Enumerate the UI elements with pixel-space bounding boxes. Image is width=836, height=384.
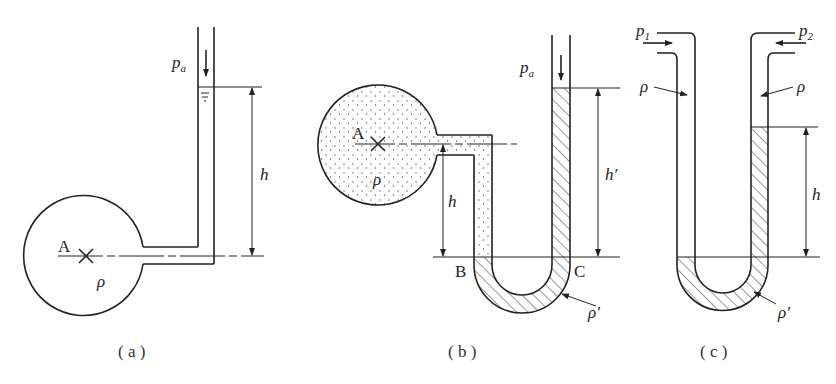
- label-h: h: [260, 165, 269, 184]
- panel-c: p1 p2 ρ ρ h ρ′ ( c ): [635, 21, 821, 361]
- label-pa: pa: [171, 53, 187, 74]
- label-h: h: [448, 192, 457, 211]
- label-density-rho: ρ: [96, 272, 105, 291]
- label-point-c: C: [574, 262, 585, 281]
- caption-a: ( a ): [118, 342, 145, 361]
- label-h: h: [812, 185, 821, 204]
- panel-a: A ρ pa h ( a ): [24, 27, 269, 361]
- label-p1: p1: [635, 21, 650, 42]
- label-density-rho-right: ρ: [796, 77, 805, 96]
- label-density-rho-prime: ρ′: [777, 303, 790, 322]
- u-tube-outer: [657, 53, 795, 311]
- caption-c: ( c ): [700, 342, 727, 361]
- label-pa: pa: [519, 58, 535, 79]
- label-density-rho: ρ: [372, 170, 381, 189]
- caption-b: ( b ): [448, 342, 476, 361]
- label-p2: p2: [798, 21, 814, 42]
- label-point-b: B: [455, 262, 466, 281]
- label-h-prime: h′: [605, 165, 618, 184]
- manometer-figure: A ρ pa h ( a ) A ρ h: [0, 0, 836, 384]
- label-point-a: A: [352, 124, 365, 143]
- label-point-a: A: [58, 237, 71, 256]
- label-density-rho-prime: ρ′: [587, 303, 600, 322]
- label-density-rho-left: ρ: [639, 77, 648, 96]
- panel-b: A ρ h h′ B C pa ρ′ ( b ): [318, 35, 620, 361]
